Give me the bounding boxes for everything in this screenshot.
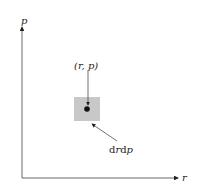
element-label: drdp xyxy=(109,145,133,155)
point-label: (r, p) xyxy=(74,61,98,71)
diagram-canvas xyxy=(0,0,202,189)
y-axis-label: p xyxy=(21,16,27,26)
x-axis-label: r xyxy=(182,173,187,183)
element-arrow xyxy=(92,124,117,141)
element-label-p: p xyxy=(127,144,133,155)
point-marker xyxy=(84,106,90,112)
